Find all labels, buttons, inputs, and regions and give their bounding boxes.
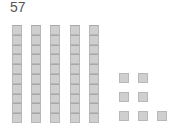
rod-cell xyxy=(89,35,99,45)
rod-cell xyxy=(89,45,99,55)
unit-cube xyxy=(138,92,148,102)
tens-rod xyxy=(12,25,22,123)
rod-cell xyxy=(31,54,41,64)
rod-cell xyxy=(70,103,80,113)
rod-cell xyxy=(50,84,60,94)
tens-rod xyxy=(70,25,80,123)
rod-cell xyxy=(70,74,80,84)
rod-cell xyxy=(89,54,99,64)
unit-cube xyxy=(138,111,148,121)
unit-cube xyxy=(119,92,129,102)
tens-rod xyxy=(89,25,99,123)
rod-cell xyxy=(12,35,22,45)
rod-cell xyxy=(50,74,60,84)
rod-cell xyxy=(70,45,80,55)
rod-cell xyxy=(89,103,99,113)
rod-cell xyxy=(70,94,80,104)
rod-cell xyxy=(31,94,41,104)
rod-cell xyxy=(89,74,99,84)
rod-cell xyxy=(50,94,60,104)
number-label: 57 xyxy=(10,0,26,15)
rod-cell xyxy=(89,84,99,94)
rod-cell xyxy=(70,64,80,74)
rod-cell xyxy=(89,94,99,104)
rod-cell xyxy=(12,45,22,55)
rod-cell xyxy=(50,35,60,45)
rod-cell xyxy=(70,84,80,94)
rod-cell xyxy=(31,64,41,74)
unit-cube xyxy=(119,111,129,121)
rod-cell xyxy=(89,25,99,35)
rod-cell xyxy=(70,54,80,64)
rod-cell xyxy=(70,35,80,45)
unit-cube xyxy=(119,73,129,83)
rod-cell xyxy=(50,54,60,64)
rod-cell xyxy=(50,103,60,113)
rod-cell xyxy=(12,74,22,84)
rod-cell xyxy=(31,74,41,84)
tens-rod xyxy=(50,25,60,123)
rod-cell xyxy=(31,45,41,55)
rod-cell xyxy=(12,84,22,94)
rod-cell xyxy=(50,25,60,35)
rod-cell xyxy=(12,113,22,123)
rod-cell xyxy=(12,103,22,113)
rod-cell xyxy=(12,64,22,74)
rod-cell xyxy=(70,25,80,35)
rod-cell xyxy=(31,84,41,94)
rod-cell xyxy=(31,25,41,35)
rod-cell xyxy=(12,94,22,104)
tens-rod xyxy=(31,25,41,123)
rod-cell xyxy=(50,45,60,55)
unit-cube xyxy=(157,111,167,121)
rod-cell xyxy=(31,103,41,113)
rod-cell xyxy=(31,35,41,45)
rod-cell xyxy=(31,113,41,123)
rod-cell xyxy=(89,113,99,123)
rod-cell xyxy=(50,64,60,74)
rod-cell xyxy=(12,25,22,35)
rod-cell xyxy=(89,64,99,74)
unit-cube xyxy=(138,73,148,83)
rod-cell xyxy=(70,113,80,123)
rod-cell xyxy=(12,54,22,64)
rod-cell xyxy=(50,113,60,123)
